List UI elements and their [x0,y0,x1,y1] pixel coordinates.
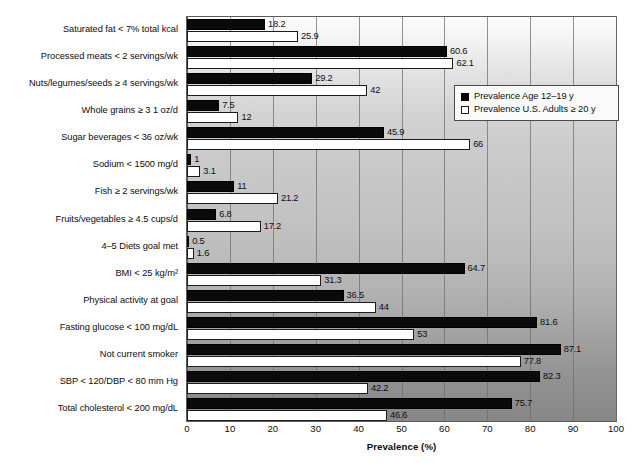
x-tick-label-100: 100 [608,423,624,435]
bar-teen [187,181,234,192]
x-tick-label-30: 30 [310,423,321,435]
bar-adult [187,166,200,177]
bar-value-label: 0.5 [192,236,204,247]
x-tick-label-40: 40 [353,423,364,435]
category-label: BMI < 25 kg/m² [0,268,178,278]
bar-adult [187,383,368,394]
chart-legend: Prevalence Age 12–19 y Prevalence U.S. A… [454,85,619,121]
bar-adult [187,139,470,150]
bar-teen [187,127,384,138]
bar-adult [187,329,414,340]
bar-teen [187,263,465,274]
bar-teen [187,209,216,220]
bar-teen [187,317,537,328]
bar-teen [187,398,512,409]
bar-value-label: 53 [417,329,427,340]
bar-value-label: 81.6 [540,317,557,328]
bar-value-label: 82.3 [543,371,560,382]
legend-label-adult: Prevalence U.S. Adults ≥ 20 y [474,104,595,115]
bar-value-label: 64.7 [468,263,485,274]
category-label: Nuts/legumes/seeds ≥ 4 servings/wk [0,78,178,88]
x-tick-label-50: 50 [396,423,407,435]
bar-adult [187,302,376,313]
bar-teen [187,19,265,30]
x-tick-label-20: 20 [267,423,278,435]
bar-value-label: 18.2 [268,19,285,30]
x-tick-label-60: 60 [439,423,450,435]
category-axis-labels: Saturated fat < 7% total kcalProcessed m… [0,16,182,422]
bar-value-label: 45.9 [387,127,404,138]
bar-value-label: 3.1 [203,166,215,177]
bar-adult [187,248,194,259]
category-label: Fish ≥ 2 servings/wk [0,186,178,196]
category-label: Fruits/vegetables ≥ 4.5 cups/d [0,214,178,224]
bar-value-label: 62.1 [456,58,473,69]
category-label: 4–5 Diets goal met [0,241,178,251]
bar-adult [187,221,261,232]
bars-layer: 18.225.960.662.129.2427.51245.96613.1112… [187,17,616,421]
bar-teen [187,290,344,301]
legend-swatch-filled-icon [461,93,469,101]
prevalence-bar-chart: Saturated fat < 7% total kcalProcessed m… [0,0,635,463]
bar-adult [187,356,521,367]
bar-adult [187,193,278,204]
bar-adult [187,31,298,42]
bar-teen [187,344,561,355]
bar-value-label: 44 [379,302,389,313]
bar-teen [187,46,447,57]
bar-teen [187,371,540,382]
bar-value-label: 42 [370,85,380,96]
category-label: Sodium < 1500 mg/d [0,159,178,169]
x-tick-label-80: 80 [525,423,536,435]
bar-value-label: 46.6 [390,410,407,421]
bar-value-label: 1.6 [197,248,209,259]
category-label: Total cholesterol < 200 mg/dL [0,403,178,413]
legend-label-teen: Prevalence Age 12–19 y [474,91,574,102]
legend-item-teen: Prevalence Age 12–19 y [461,90,612,103]
category-label: Whole grains ≥ 3 1 oz/d [0,105,178,115]
bar-value-label: 42.2 [371,383,388,394]
category-label: Processed meats < 2 servings/wk [0,51,178,61]
category-label: SBP < 120/DBP < 80 mm Hg [0,376,178,386]
plot-area: 18.225.960.662.129.2427.51245.96613.1112… [186,16,617,422]
x-tick-label-70: 70 [482,423,493,435]
bar-value-label: 17.2 [264,221,281,232]
bar-value-label: 6.8 [219,209,231,220]
bar-teen [187,154,191,165]
category-label: Not current smoker [0,349,178,359]
x-tick-label-0: 0 [184,423,189,435]
x-tick-label-90: 90 [568,423,579,435]
x-tick-label-10: 10 [225,423,236,435]
bar-teen [187,236,189,247]
bar-value-label: 31.3 [324,275,341,286]
bar-adult [187,275,321,286]
bar-value-label: 60.6 [450,46,467,57]
bar-value-label: 29.2 [315,73,332,84]
bar-value-label: 7.5 [222,100,234,111]
bar-value-label: 66 [473,139,483,150]
category-label: Physical activity at goal [0,295,178,305]
bar-value-label: 11 [237,181,246,192]
category-label: Saturated fat < 7% total kcal [0,24,178,34]
bar-value-label: 87.1 [564,344,581,355]
bar-adult [187,58,453,69]
bar-teen [187,100,219,111]
category-label: Sugar beverages < 36 oz/wk [0,132,178,142]
bar-adult [187,112,238,123]
bar-value-label: 21.2 [281,193,298,204]
gridline-100 [616,17,617,421]
category-label: Fasting glucose < 100 mg/dL [0,322,178,332]
x-axis-title: Prevalence (%) [186,441,617,452]
legend-swatch-open-icon [461,106,469,114]
bar-value-label: 1 [194,154,199,165]
bar-value-label: 75.7 [515,398,532,409]
bar-value-label: 12 [241,112,251,123]
bar-adult [187,410,387,421]
legend-item-adult: Prevalence U.S. Adults ≥ 20 y [461,103,612,116]
bar-value-label: 25.9 [301,31,318,42]
bar-value-label: 36.5 [347,290,364,301]
x-axis-ticks: 0102030405060708090100 [186,423,617,441]
bar-value-label: 77.8 [524,356,541,367]
bar-adult [187,85,367,96]
bar-teen [187,73,312,84]
